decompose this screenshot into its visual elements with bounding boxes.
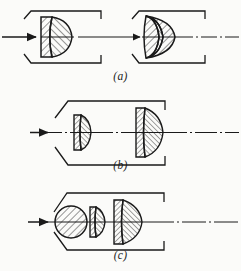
optical-lens-figure: (a) (b) (c) — [0, 0, 241, 271]
caption-panel-b: (b) — [0, 159, 241, 171]
figure-canvas — [0, 0, 241, 271]
caption-panel-c: (c) — [0, 249, 241, 261]
panel-a — [2, 11, 239, 63]
panel-b — [30, 101, 239, 165]
caption-panel-a: (a) — [0, 70, 241, 82]
panel-c — [28, 193, 239, 250]
